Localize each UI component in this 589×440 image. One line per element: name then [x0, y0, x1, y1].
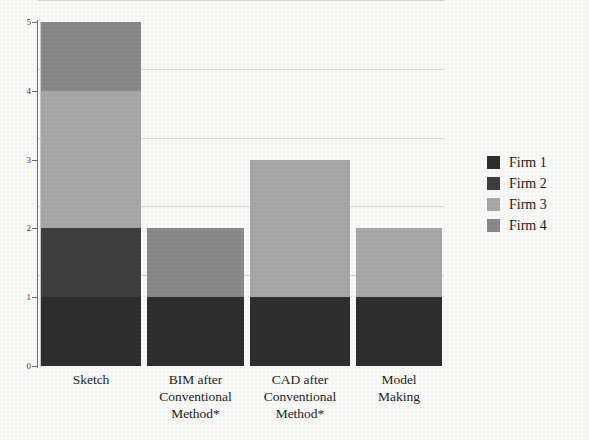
x-axis-label: Sketch	[33, 371, 149, 388]
legend-item: Firm 3	[487, 194, 547, 215]
bar-segment	[41, 297, 141, 366]
y-tick-mark-0	[32, 366, 37, 367]
bar-segment	[356, 228, 442, 297]
x-axis-label: CAD afterConventionalMethod*	[242, 371, 358, 422]
x-axis-label-line: CAD after	[242, 371, 358, 388]
bar-group	[41, 22, 141, 366]
x-axis-label-line: Model	[348, 371, 450, 388]
y-tick-mark-1	[32, 297, 37, 298]
legend-item: Firm 4	[487, 215, 547, 236]
x-axis-label-line: Method*	[242, 405, 358, 422]
y-tick-mark-4	[32, 91, 37, 92]
legend-label: Firm 1	[509, 156, 547, 170]
bar-segment	[41, 228, 141, 297]
x-axis-label: BIM afterConventionalMethod*	[139, 371, 252, 422]
x-axis-label-line: Conventional	[242, 388, 358, 405]
bar-segment	[250, 297, 350, 366]
y-tick-mark-5	[32, 22, 37, 23]
legend-label: Firm 3	[509, 198, 547, 212]
legend-item: Firm 1	[487, 152, 547, 173]
stacked-bar-chart: 012345 SketchBIM afterConventionalMethod…	[0, 0, 589, 440]
bar-group	[356, 22, 442, 366]
x-axis-label-line: BIM after	[139, 371, 252, 388]
y-tick-label-5: 5	[14, 17, 31, 27]
bar-segment	[147, 228, 244, 297]
legend-swatch-icon	[487, 177, 500, 190]
legend-swatch-icon	[487, 198, 500, 211]
bar-segment	[41, 22, 141, 91]
y-tick-label-3: 3	[14, 155, 31, 165]
x-axis-label-line: Conventional	[139, 388, 252, 405]
x-axis-label-line: Making	[348, 388, 450, 405]
y-tick-label-1: 1	[14, 292, 31, 302]
y-tick-mark-2	[32, 228, 37, 229]
legend-label: Firm 2	[509, 177, 547, 191]
bar-group	[147, 22, 244, 366]
gridline-5	[38, 0, 444, 1]
y-tick-label-2: 2	[14, 223, 31, 233]
bar-segment	[41, 91, 141, 229]
bar-group	[250, 22, 350, 366]
y-tick-label-0: 0	[14, 361, 31, 371]
legend-label: Firm 4	[509, 219, 547, 233]
plot-area	[38, 22, 444, 366]
bar-segment	[147, 297, 244, 366]
legend: Firm 1Firm 2Firm 3Firm 4	[487, 152, 547, 236]
x-axis-label-line: Method*	[139, 405, 252, 422]
x-axis-label-line: Sketch	[33, 371, 149, 388]
bar-segment	[356, 297, 442, 366]
legend-swatch-icon	[487, 219, 500, 232]
bar-segment	[250, 160, 350, 298]
y-tick-mark-3	[32, 160, 37, 161]
y-tick-label-4: 4	[14, 86, 31, 96]
x-axis-label: ModelMaking	[348, 371, 450, 405]
legend-item: Firm 2	[487, 173, 547, 194]
legend-swatch-icon	[487, 156, 500, 169]
